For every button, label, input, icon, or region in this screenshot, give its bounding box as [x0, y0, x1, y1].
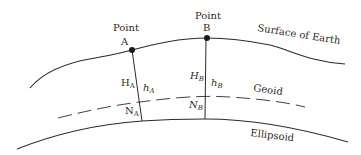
- earth-surface-curve: [30, 38, 345, 88]
- geoid-height-a-label: NA: [125, 105, 140, 118]
- point-b-letter: B: [203, 22, 210, 33]
- geoid-label: Geoid: [253, 82, 284, 97]
- ellipsoid-label: Ellipsoid: [250, 127, 296, 143]
- ellipsoidal-height-a-label: hA: [143, 82, 155, 95]
- surface-of-earth-label: Surface of Earth: [257, 22, 342, 46]
- point-a-marker: [129, 47, 135, 53]
- orthometric-height-b-label: HB: [189, 70, 204, 83]
- geodesy-diagram: Point A Point B Surface of Earth Geoid E…: [0, 0, 361, 155]
- ellipsoid-curve: [17, 119, 348, 149]
- point-a-letter: A: [120, 36, 129, 47]
- point-a-title: Point: [113, 22, 139, 33]
- ellipsoidal-height-b-label: hB: [211, 77, 223, 90]
- geoid-curve: [58, 96, 305, 118]
- normal-line-b: [205, 38, 206, 119]
- point-b-marker: [204, 35, 210, 41]
- geoid-height-b-label: NB: [188, 99, 203, 112]
- point-b-title: Point: [195, 10, 221, 21]
- orthometric-height-a-label: HA: [121, 77, 136, 90]
